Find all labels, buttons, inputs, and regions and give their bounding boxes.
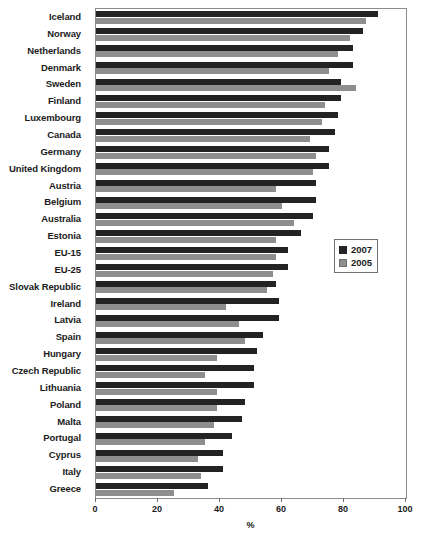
bar-2005 [96,372,205,378]
bar-2007 [96,79,341,85]
bar-2005 [96,153,316,159]
bar-2005 [96,338,245,344]
bar-2007 [96,433,232,439]
x-axis-tick-label: 20 [152,504,162,514]
bar-2005 [96,68,329,74]
x-axis-tick [219,498,220,502]
bar-row [96,464,406,481]
category-label: Latvia [0,311,86,328]
bar-row [96,296,406,313]
bar-2005 [96,355,217,361]
bar-2005 [96,490,174,496]
bar-2007 [96,129,335,135]
bar-2007 [96,230,301,236]
bar-row [96,447,406,464]
bar-row [96,144,406,161]
bar-2007 [96,146,329,152]
dark-square-icon [339,246,347,254]
bar-2007 [96,264,288,270]
category-label: Cyprus [0,446,86,463]
bar-row [96,211,406,228]
x-axis-tick [343,498,344,502]
x-axis-tick [95,498,96,502]
legend-label: 2007 [351,244,372,255]
category-label: Lithuania [0,379,86,396]
bar-2005 [96,237,276,243]
bar-row [96,9,406,26]
bar-row [96,93,406,110]
bar-2007 [96,348,257,354]
bar-2005 [96,220,294,226]
bar-2007 [96,180,316,186]
bar-2005 [96,304,226,310]
bar-row [96,76,406,93]
bar-2007 [96,365,254,371]
bar-row [96,414,406,431]
category-label: Malta [0,413,86,430]
category-label: Portugal [0,429,86,446]
bar-2007 [96,399,245,405]
bar-2007 [96,483,208,489]
x-axis-title: % [246,520,254,530]
bar-row [96,397,406,414]
legend-label: 2005 [351,257,372,268]
bar-2005 [96,287,267,293]
legend-item: 2007 [339,243,372,256]
gray-square-icon [339,259,347,267]
bar-2005 [96,18,366,24]
bar-2007 [96,197,316,203]
x-axis-tick-label: 0 [92,504,97,514]
category-label: Denmark [0,59,86,76]
bar-2005 [96,439,205,445]
category-label: Germany [0,143,86,160]
bar-2005 [96,271,273,277]
bar-2007 [96,466,223,472]
bar-2005 [96,405,217,411]
bar-2007 [96,112,338,118]
bar-2005 [96,203,282,209]
bar-2007 [96,247,288,253]
bar-2005 [96,102,325,108]
bar-2005 [96,35,350,41]
category-label: Norway [0,25,86,42]
bar-2007 [96,163,329,169]
bar-2005 [96,119,322,125]
bar-2005 [96,321,239,327]
bar-2007 [96,95,341,101]
bar-row [96,127,406,144]
bar-row [96,380,406,397]
bar-row [96,279,406,296]
bar-2007 [96,298,279,304]
bar-2007 [96,62,353,68]
category-label: United Kingdom [0,160,86,177]
bar-row [96,60,406,77]
bar-2007 [96,45,353,51]
category-label: Australia [0,210,86,227]
bar-2005 [96,473,201,479]
category-label: Spain [0,328,86,345]
category-label: Greece [0,480,86,497]
bar-row [96,481,406,498]
bar-2005 [96,389,217,395]
bar-2007 [96,332,263,338]
category-label: Iceland [0,8,86,25]
bar-row [96,110,406,127]
bar-2005 [96,169,313,175]
bar-2005 [96,51,338,57]
bar-row [96,329,406,346]
bar-2005 [96,85,356,91]
category-label: Luxembourg [0,109,86,126]
x-axis-tick-label: 40 [214,504,224,514]
chart-legend: 20072005 [334,239,378,273]
category-label: Netherlands [0,42,86,59]
x-axis-tick [157,498,158,502]
category-label: EU-25 [0,261,86,278]
bar-row [96,363,406,380]
bar-2005 [96,136,310,142]
bar-2007 [96,382,254,388]
category-axis-labels: IcelandNorwayNetherlandsDenmarkSwedenFin… [0,8,86,497]
horizontal-bar-chart: IcelandNorwayNetherlandsDenmarkSwedenFin… [0,0,422,542]
category-label: Slovak Republic [0,278,86,295]
bar-2007 [96,11,378,17]
category-label: Belgium [0,193,86,210]
